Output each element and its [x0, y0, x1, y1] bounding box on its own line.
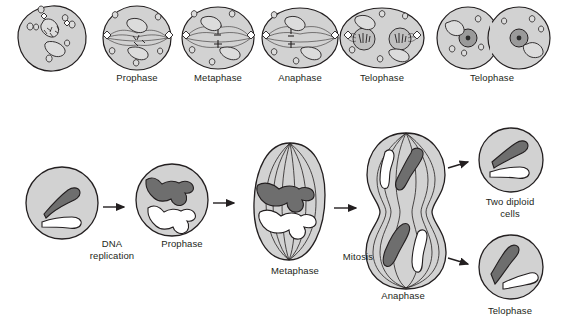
bottom-cell-daughter-lower: [479, 235, 543, 299]
bottom-label-telophase: Telophase: [470, 305, 550, 317]
diagram-canvas: [0, 0, 566, 332]
bottom-label-prophase: Prophase: [147, 238, 217, 250]
top-cell-telophase: [340, 8, 424, 68]
top-cell-prophase: [103, 6, 173, 70]
bottom-label-metaphase: Metaphase: [255, 265, 335, 277]
mitosis-diagram: Prophase Metaphase Anaphase Telophase Te…: [0, 0, 566, 332]
top-cell-telophase-two-cells: [437, 7, 550, 69]
top-label-anaphase: Anaphase: [260, 72, 340, 84]
top-label-telophase-two: Telophase: [452, 72, 532, 84]
top-label-prophase: Prophase: [97, 72, 177, 84]
top-cell-interphase: [18, 6, 86, 71]
bottom-cell-anaphase: [366, 133, 446, 289]
bottom-cell-metaphase: [254, 143, 325, 260]
bottom-label-mitosis: Mitosis: [328, 251, 388, 263]
bottom-cell-prophase: [136, 164, 208, 236]
bottom-cell-daughter-upper: [479, 128, 543, 192]
top-label-telophase: Telophase: [342, 72, 422, 84]
arrow-to-lower-daughter: [448, 258, 468, 264]
bottom-label-two-diploid-cells: Two diploid cells: [470, 196, 550, 219]
top-cell-anaphase: [262, 8, 339, 68]
bottom-label-dna-replication: DNA replication: [77, 238, 147, 261]
bottom-cell-parent: [26, 167, 98, 239]
top-label-metaphase: Metaphase: [178, 72, 258, 84]
bottom-label-anaphase: Anaphase: [363, 290, 443, 302]
top-cell-metaphase: [182, 7, 255, 69]
arrow-to-upper-daughter: [448, 162, 468, 168]
